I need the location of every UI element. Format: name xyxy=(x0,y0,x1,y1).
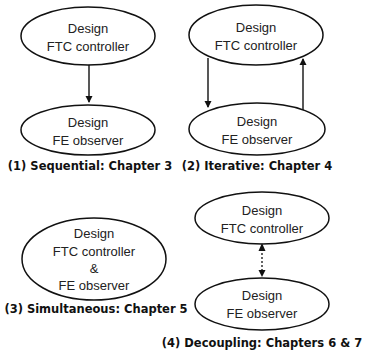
node-fe-observer: Design FE observer xyxy=(189,103,325,155)
node-label: FE observer xyxy=(227,306,298,321)
panel-caption: (3) Simultaneous: Chapter 5 xyxy=(4,302,187,316)
node-ftc-controller: Design FTC controller xyxy=(189,5,323,65)
node-label: FTC controller xyxy=(47,39,130,54)
node-label: FTC controller xyxy=(53,244,136,259)
node-fe-observer: Design FE observer xyxy=(195,278,329,330)
node-ftc-controller: Design FTC controller xyxy=(21,7,155,65)
node-label: & xyxy=(90,261,99,276)
node-label: Design xyxy=(242,288,282,303)
node-label: FE observer xyxy=(222,132,293,147)
node-label: FE observer xyxy=(59,278,130,293)
node-label: Design xyxy=(237,114,277,129)
panel-simultaneous: Design FTC controller & FE observer (3) … xyxy=(4,218,187,316)
node-label: Design xyxy=(68,21,108,36)
node-ftc-controller: Design FTC controller xyxy=(195,192,329,244)
panel-sequential: Design FTC controller Design FE observer… xyxy=(8,7,172,173)
node-label: Design xyxy=(236,20,276,35)
design-approaches-diagram: Design FTC controller Design FE observer… xyxy=(0,0,374,360)
node-label: FTC controller xyxy=(221,221,304,236)
panel-decoupling: Design FTC controller Design FE observer… xyxy=(162,192,362,350)
panel-caption: (2) Iterative: Chapter 4 xyxy=(182,159,332,173)
panel-caption: (1) Sequential: Chapter 3 xyxy=(8,159,172,173)
panel-caption: (4) Decoupling: Chapters 6 & 7 xyxy=(162,336,362,350)
node-label: FE observer xyxy=(53,133,124,148)
node-label: Design xyxy=(242,203,282,218)
node-label: Design xyxy=(74,226,114,241)
node-label: Design xyxy=(68,115,108,130)
node-combined-design: Design FTC controller & FE observer xyxy=(22,218,166,300)
node-fe-observer: Design FE observer xyxy=(21,105,155,155)
node-label: FTC controller xyxy=(215,38,298,53)
panel-iterative: Design FTC controller Design FE observer… xyxy=(182,5,332,173)
